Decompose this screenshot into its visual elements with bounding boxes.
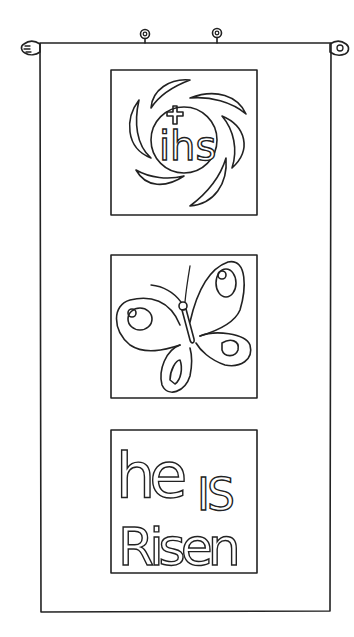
hanging-ring-left-icon	[141, 30, 150, 44]
right-finial-icon	[330, 41, 349, 55]
butterfly-icon	[117, 262, 251, 392]
svg-text:ihs: ihs	[159, 123, 216, 169]
hanging-ring-right-icon	[213, 29, 222, 44]
banner-drawing: ihs he IS Risen	[0, 0, 354, 637]
svg-text:he: he	[116, 439, 184, 512]
svg-text:Risen: Risen	[118, 517, 237, 577]
svg-text:IS: IS	[197, 469, 233, 520]
left-finial-icon	[21, 41, 40, 54]
panel-ihs: ihs	[111, 70, 257, 215]
panel-he-is-risen: he IS Risen	[111, 430, 257, 577]
panel-butterfly	[111, 255, 257, 398]
